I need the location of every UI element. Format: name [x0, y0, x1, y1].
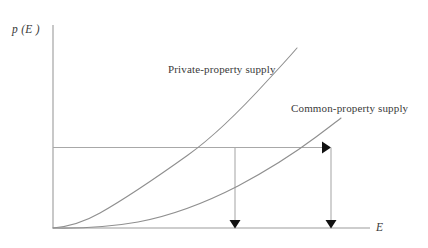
y-axis-label: p (E )	[12, 24, 40, 36]
x-axis-label: E	[376, 222, 383, 234]
common-property-supply-label: Common-property supply	[291, 103, 408, 114]
price-line-arrow-icon	[322, 142, 331, 154]
private-property-supply-curve	[53, 48, 297, 228]
common-property-supply-curve	[53, 118, 341, 228]
private-equilibrium-arrow-icon	[230, 220, 241, 229]
supply-curves-figure: p (E ) E Private-property supply Common-…	[0, 0, 428, 248]
common-equilibrium-arrow-icon	[326, 220, 337, 229]
figure-canvas	[0, 0, 428, 248]
private-property-supply-label: Private-property supply	[168, 64, 276, 75]
